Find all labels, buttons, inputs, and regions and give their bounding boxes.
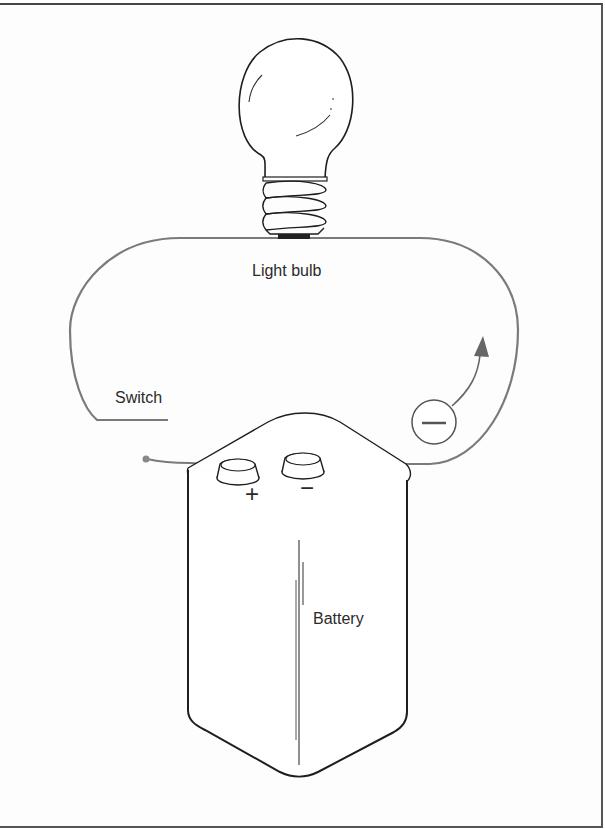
wire-left xyxy=(70,238,282,420)
circuit-diagram xyxy=(0,0,605,829)
battery-icon xyxy=(187,413,410,777)
positive-terminal-label: + xyxy=(245,480,259,508)
switch-contact-dot xyxy=(143,456,150,463)
negative-terminal-label: − xyxy=(300,474,314,502)
switch-label: Switch xyxy=(115,389,162,407)
current-arrow xyxy=(452,355,480,406)
light-bulb-icon xyxy=(239,39,353,239)
battery-label: Battery xyxy=(313,610,364,628)
light-bulb-label: Light bulb xyxy=(252,262,321,280)
arrowhead-icon xyxy=(474,336,489,357)
